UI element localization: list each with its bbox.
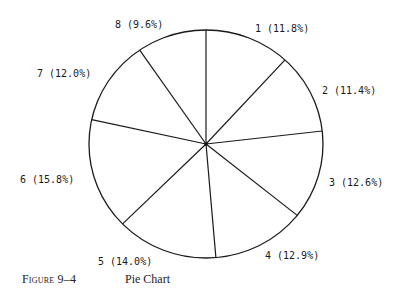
slice-divider <box>206 144 297 215</box>
figure-title: Pie Chart <box>125 272 170 287</box>
slice-label: 2 (11.4%) <box>322 85 376 96</box>
slice-label: 8 (9.6%) <box>115 19 163 30</box>
slice-label: 5 (14.0%) <box>98 256 152 267</box>
slice-divider <box>92 120 206 144</box>
pie-center <box>204 142 208 146</box>
slice-divider <box>206 60 285 144</box>
slice-label: 3 (12.6%) <box>329 177 383 188</box>
slice-label: 6 (15.8%) <box>20 174 74 185</box>
pie-chart: 1 (11.8%)2 (11.4%)3 (12.6%)4 (12.9%)5 (1… <box>0 0 406 293</box>
slice-divider <box>123 144 206 224</box>
slice-label: 7 (12.0%) <box>37 68 91 79</box>
slice-divider <box>206 131 322 144</box>
slice-label: 1 (11.8%) <box>255 23 309 34</box>
slice-divider <box>206 144 216 258</box>
figure-number: Figure 9–4 <box>22 272 76 287</box>
slice-label: 4 (12.9%) <box>265 250 319 261</box>
slice-divider <box>140 50 206 144</box>
